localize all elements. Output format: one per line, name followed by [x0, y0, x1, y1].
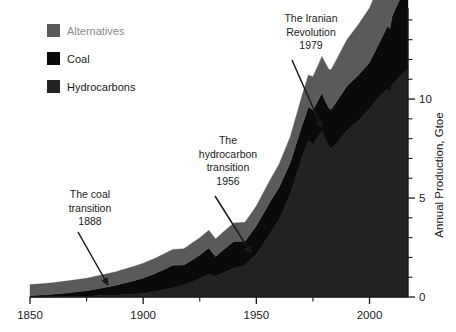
x-tick-label-1900: 1900 — [130, 309, 156, 321]
legend-swatch-hydrocarbons — [47, 80, 60, 93]
legend-swatch-coal — [47, 52, 60, 65]
legend-label-coal: Coal — [67, 53, 90, 65]
y-tick-label-5: 5 — [419, 192, 425, 204]
y-axis-title-group: Annual Production, Gtoe — [433, 112, 445, 237]
chart-root: 18501900195020000510 Annual Production, … — [0, 0, 456, 332]
legend-label-alternatives: Alternatives — [67, 25, 125, 37]
legend-swatch-alternatives — [47, 24, 60, 37]
y-tick-label-10: 10 — [419, 93, 432, 105]
legend-label-hydrocarbons: Hydrocarbons — [67, 81, 136, 93]
x-tick-label-2000: 2000 — [357, 309, 383, 321]
stacked-area-chart: 18501900195020000510 Annual Production, … — [0, 0, 456, 332]
y-axis-title: Annual Production, Gtoe — [433, 112, 445, 237]
x-tick-label-1850: 1850 — [17, 309, 43, 321]
x-tick-label-1950: 1950 — [244, 309, 270, 321]
y-tick-label-0: 0 — [419, 291, 425, 303]
